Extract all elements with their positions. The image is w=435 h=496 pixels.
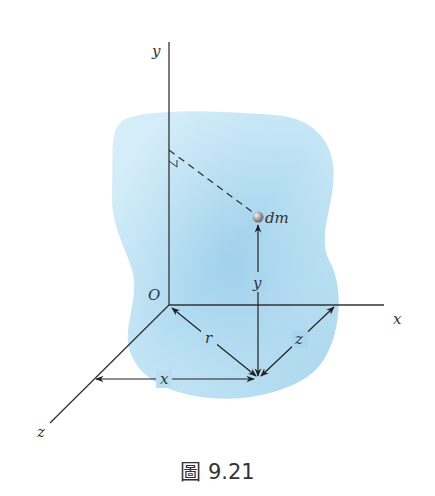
dm-label: dm xyxy=(265,209,289,227)
moment-of-inertia-diagram: y x z O dm y r z x xyxy=(0,0,435,496)
x-dimension-label: x xyxy=(160,370,169,388)
r-dimension-label: r xyxy=(205,329,213,347)
rigid-body-shading xyxy=(112,112,339,399)
z-dimension-label: z xyxy=(294,330,303,348)
figure-caption: 圖 9.21 xyxy=(0,455,435,485)
x-axis-label: x xyxy=(393,310,402,328)
y-dimension-label: y xyxy=(252,274,262,292)
origin-label: O xyxy=(148,286,160,304)
y-axis-label: y xyxy=(151,42,161,60)
mass-element-sphere xyxy=(253,212,264,223)
z-axis-label: z xyxy=(36,423,45,441)
